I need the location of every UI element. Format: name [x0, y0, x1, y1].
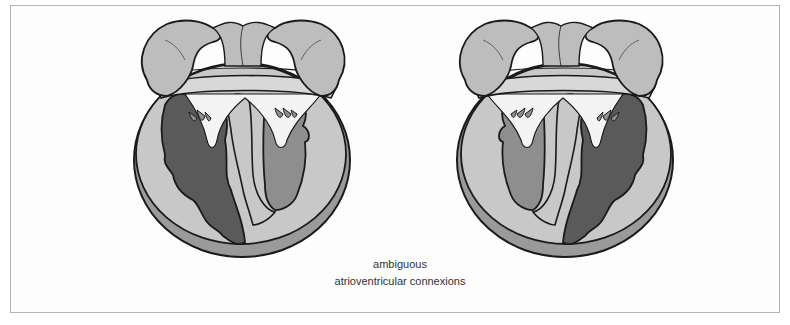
heart-diagram-right [443, 0, 683, 260]
caption-line-2: atrioventricular connexions [300, 273, 500, 290]
atrial-roof [213, 22, 275, 66]
caption-line-1: ambiguous [300, 256, 500, 273]
heart-diagram-left [125, 0, 365, 260]
atrial-roof [531, 22, 593, 66]
figure-caption: ambiguous atrioventricular connexions [300, 256, 500, 290]
